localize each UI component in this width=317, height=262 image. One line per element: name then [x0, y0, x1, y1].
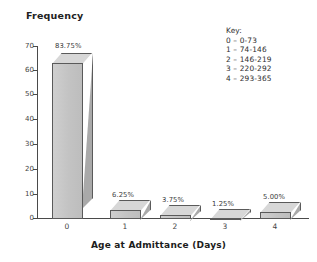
y-tick-label-60: 60: [14, 67, 34, 74]
x-axis-title: Age at Admittance (Days): [0, 240, 317, 250]
y-tick-label-40: 40: [14, 116, 34, 123]
y-tick-label-30: 30: [14, 141, 34, 148]
x-tick-label-3: 3: [213, 223, 237, 231]
x-tick-label-4: 4: [263, 223, 287, 231]
bar-chart: Frequency 70 60 50 40 30 20 10 0 83.75% …: [0, 0, 317, 262]
y-tick-label-20: 20: [14, 166, 34, 173]
bar-value-label-4: 5.00%: [263, 194, 285, 201]
y-tick-label-50: 50: [14, 91, 34, 98]
bar-front-face: [160, 215, 191, 219]
key-item-0: 0 – 0-73: [226, 36, 272, 45]
bar-side-face: [82, 53, 93, 209]
key-item-2: 2 – 146-219: [226, 55, 272, 64]
y-tick-label-10: 10: [14, 191, 34, 198]
key-title: Key:: [226, 26, 272, 35]
bar-value-label-2: 3.75%: [162, 197, 184, 204]
bar-value-label-0: 83.75%: [55, 43, 82, 50]
x-tick-label-1: 1: [113, 223, 137, 231]
bar-front-face: [52, 63, 83, 219]
bar-front-face: [260, 212, 291, 219]
y-axis-title: Frequency: [26, 10, 83, 21]
y-tick-label-0: 0: [14, 215, 34, 222]
x-tick-label-2: 2: [163, 223, 187, 231]
bar-front-face: [210, 218, 241, 220]
key-item-4: 4 – 293-365: [226, 74, 272, 83]
y-tick-label-70: 70: [14, 43, 34, 50]
chart-key: Key: 0 – 0-73 1 – 74-146 2 – 146-219 3 –…: [226, 26, 272, 83]
key-item-1: 1 – 74-146: [226, 45, 272, 54]
key-item-3: 3 – 220-292: [226, 64, 272, 73]
bar-value-label-1: 6.25%: [112, 192, 134, 199]
bar-value-label-3: 1.25%: [212, 201, 234, 208]
bar-front-face: [110, 210, 141, 219]
x-tick-label-0: 0: [55, 223, 79, 231]
